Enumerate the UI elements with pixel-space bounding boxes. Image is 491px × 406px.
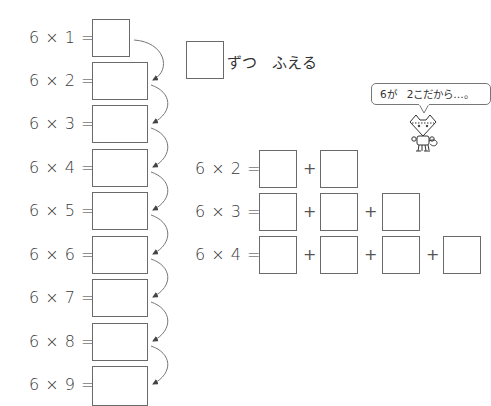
addend-box-6x4-1[interactable] bbox=[259, 236, 297, 274]
speech-bubble: 6が 2こだから…。 bbox=[371, 83, 491, 105]
addend-box-6x4-3[interactable] bbox=[382, 236, 420, 274]
addend-box-6x4-2[interactable] bbox=[320, 236, 358, 274]
plus-sign: + bbox=[364, 245, 377, 265]
increment-text: ずつ ふえる bbox=[227, 51, 317, 72]
addition-label-6x3: 6 × 3 = bbox=[195, 202, 261, 222]
addend-box-6x2-1[interactable] bbox=[259, 150, 297, 188]
speech-bubble-text: 6が 2こだから…。 bbox=[380, 88, 474, 100]
fox-character-icon bbox=[408, 114, 444, 158]
addend-box-6x3-3[interactable] bbox=[382, 193, 420, 231]
plus-sign: + bbox=[426, 245, 439, 265]
plus-sign: + bbox=[303, 159, 316, 179]
addition-label-6x2: 6 × 2 = bbox=[195, 159, 261, 179]
plus-sign: + bbox=[303, 245, 316, 265]
addend-box-6x3-2[interactable] bbox=[320, 193, 358, 231]
addend-box-6x3-1[interactable] bbox=[259, 193, 297, 231]
addend-box-6x4-4[interactable] bbox=[443, 236, 481, 274]
addend-box-6x2-2[interactable] bbox=[320, 150, 358, 188]
addition-label-6x4: 6 × 4 = bbox=[195, 245, 261, 265]
plus-sign: + bbox=[303, 202, 316, 222]
increment-answer-box[interactable] bbox=[186, 41, 224, 79]
plus-sign: + bbox=[364, 202, 377, 222]
